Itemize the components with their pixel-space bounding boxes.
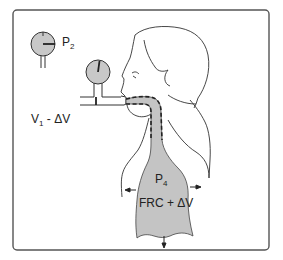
- mouthpiece-tube: [80, 96, 126, 105]
- volume-label: V1 - ΔV: [31, 112, 70, 128]
- gauge-p2-label: P2: [62, 35, 75, 51]
- plethysmograph-diagram: P2 V1 - ΔV: [0, 0, 283, 260]
- airway: [126, 97, 193, 238]
- airway-and-lungs: [126, 97, 193, 238]
- gauge-p2: [31, 32, 55, 68]
- lung-volume-label: FRC + ΔV: [139, 196, 193, 210]
- gauge-mouth: [86, 60, 110, 97]
